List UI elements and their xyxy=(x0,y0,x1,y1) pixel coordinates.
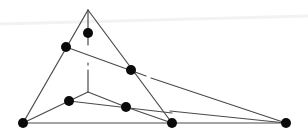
edge-9 xyxy=(88,92,126,107)
node-left-edge xyxy=(61,42,71,52)
node-bottom-right xyxy=(281,118,291,128)
node-bottom-left xyxy=(18,118,28,128)
node-right-edge xyxy=(126,65,136,75)
node-lower-mid-inner xyxy=(121,102,131,112)
edge-12 xyxy=(126,107,172,123)
background-smudge xyxy=(0,16,308,24)
node-bottom-mid xyxy=(167,118,177,128)
edges-group xyxy=(23,10,286,123)
node-upper-inner xyxy=(83,28,93,38)
node-lower-left-inner xyxy=(64,96,74,106)
nodes-group xyxy=(18,28,291,128)
triangle-diagram xyxy=(0,0,308,133)
edge-0 xyxy=(23,10,88,123)
